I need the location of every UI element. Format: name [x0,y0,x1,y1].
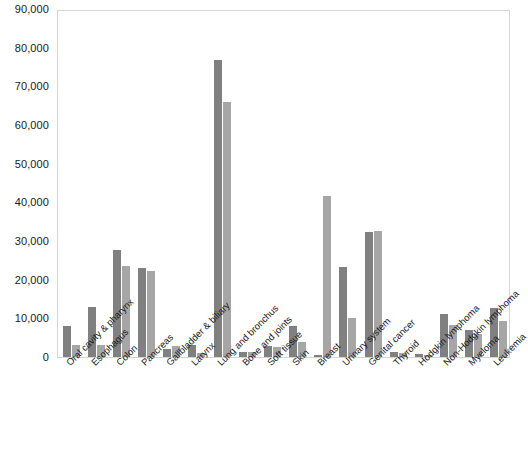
bar-group [439,11,457,357]
bar-group [364,11,382,357]
bar-group [238,11,256,357]
bar-group [137,11,155,357]
y-axis-tick-label: 70,000 [15,81,49,92]
bar [138,268,146,357]
bar [339,267,347,357]
bar-group [313,11,331,357]
bar-group [62,11,80,357]
bar [223,102,231,357]
bar [323,196,331,357]
y-axis-tick-label: 90,000 [15,4,49,15]
bar-group [187,11,205,357]
bar [63,326,71,357]
bar-group [87,11,105,357]
bar-group [162,11,180,357]
bar-group [414,11,432,357]
y-axis-tick-label: 40,000 [15,197,49,208]
y-axis-tick-label: 0 [43,352,49,363]
y-axis-tick-label: 60,000 [15,120,49,131]
bar-group [389,11,407,357]
y-axis-tick-label: 20,000 [15,275,49,286]
y-axis-tick-label: 30,000 [15,236,49,247]
y-axis: 010,00020,00030,00040,00050,00060,00070,… [0,0,53,459]
y-axis-tick-label: 80,000 [15,43,49,54]
y-axis-tick-label: 50,000 [15,159,49,170]
bar-group [288,11,306,357]
bar-group [338,11,356,357]
x-axis: Oral cavity & pharynxEsophagusColonPancr… [57,360,510,459]
y-axis-tick-label: 10,000 [15,313,49,324]
